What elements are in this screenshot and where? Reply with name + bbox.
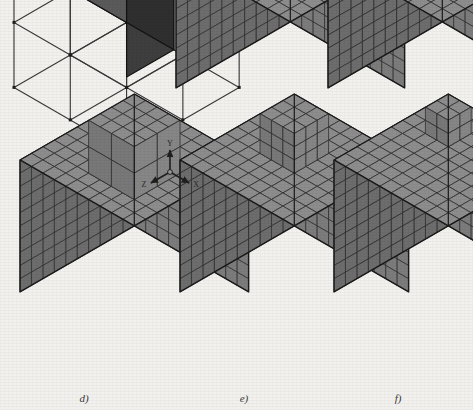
panel-label-e: e) (230, 392, 258, 404)
figure-canvas: a)b)c)d)e)f)YXZ (0, 0, 473, 410)
axis-label-y: Y (167, 139, 173, 148)
panel-label-d: d) (70, 392, 98, 404)
panel-f (334, 218, 473, 410)
panel-label-f: f) (384, 392, 412, 404)
axis-label-x: X (193, 180, 199, 189)
axis-triad: YXZ (136, 142, 206, 198)
axis-label-z: Z (141, 180, 146, 189)
